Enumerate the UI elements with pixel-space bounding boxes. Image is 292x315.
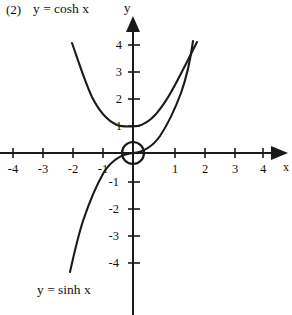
y-tick-label-pos4: 4 (100, 39, 122, 52)
sinh-curve-label: y = sinh x (37, 283, 91, 297)
x-tick-label-pos2: 2 (195, 163, 215, 176)
x-axis-label: x (283, 161, 289, 173)
x-tick-label-pos4: 4 (253, 163, 273, 176)
x-tick-label-neg4: -4 (3, 163, 23, 176)
item-number-label: (2) (6, 3, 21, 16)
y-tick-label-neg4: -4 (97, 257, 119, 270)
y-tick-label-neg3: -3 (97, 230, 119, 243)
x-tick-label-neg1: -1 (93, 163, 113, 176)
curve-cosh (72, 42, 197, 127)
y-tick-label-neg1: -1 (97, 176, 119, 189)
y-tick-label-pos1: 1 (100, 120, 122, 133)
y-tick-label-neg2: -2 (97, 203, 119, 216)
graph-canvas (0, 0, 292, 315)
x-tick-label-neg3: -3 (33, 163, 53, 176)
x-axis-arrowhead (271, 146, 288, 160)
x-tick-label-neg2: -2 (63, 163, 83, 176)
x-tick-label-pos1: 1 (165, 163, 185, 176)
y-tick-label-pos2: 2 (100, 93, 122, 106)
y-axis-label: y (124, 1, 131, 14)
hyperbolic-functions-figure: (2) y = cosh x y = sinh x y x -4 -3 -2 -… (0, 0, 292, 315)
y-axis-arrowhead (126, 16, 140, 32)
y-tick-label-pos3: 3 (100, 66, 122, 79)
cosh-curve-label: y = cosh x (33, 2, 89, 16)
x-tick-label-pos3: 3 (225, 163, 245, 176)
